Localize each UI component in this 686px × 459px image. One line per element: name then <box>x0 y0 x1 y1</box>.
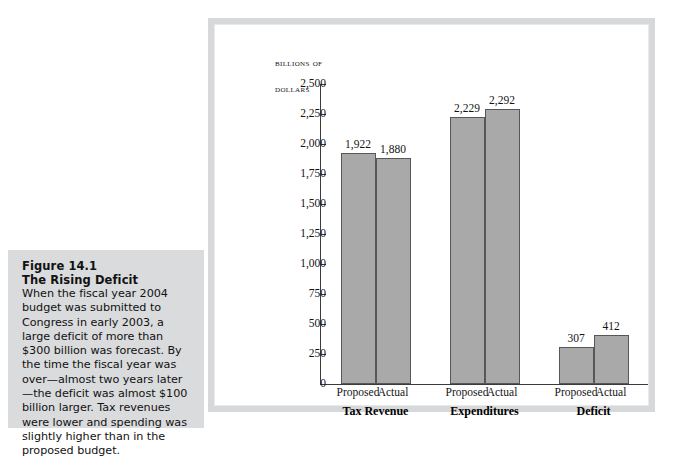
figure-caption-box: Figure 14.1 The Rising Deficit When the … <box>8 250 204 428</box>
bar <box>559 347 594 384</box>
y-axis-tick-label-wrap: 2,500 <box>264 84 326 85</box>
y-axis-tick-label-wrap: 1,750 <box>264 174 326 175</box>
y-axis-tick-label-wrap: 2,000 <box>264 144 326 145</box>
y-axis-tick-label: 500 <box>280 318 326 330</box>
y-axis-tick-label: 1,250 <box>280 228 326 240</box>
y-axis-tick-label: 1,500 <box>280 198 326 210</box>
x-axis-series-label: Actual <box>586 387 637 399</box>
y-axis-tick-label-wrap: 1,250 <box>264 234 326 235</box>
y-axis-tick-label-wrap: 750 <box>264 294 326 295</box>
y-axis-tick-label: 250 <box>280 348 326 360</box>
y-axis-tick-label: 1,000 <box>280 258 326 270</box>
y-axis-tick-label-wrap: 1,500 <box>264 204 326 205</box>
y-axis-tick-label-wrap: 500 <box>264 324 326 325</box>
bar <box>485 109 520 384</box>
bar <box>450 117 485 385</box>
figure-title: The Rising Deficit <box>22 273 193 287</box>
chart-plot-area: Billions of Dollars 02505007501,0001,250… <box>215 25 648 405</box>
y-axis-tick-label: 2,500 <box>280 78 326 90</box>
figure-number: Figure 14.1 <box>22 259 193 273</box>
y-axis-tick-label: 1,750 <box>280 168 326 180</box>
x-axis-group-label: Deficit <box>539 405 649 417</box>
x-axis-labels: ProposedActualTax RevenueProposedActualE… <box>321 387 648 427</box>
y-axis-tick-label: 2,250 <box>280 108 326 120</box>
page-bleed-text <box>300 437 680 448</box>
y-axis-title-line-1: Billions of <box>275 56 322 69</box>
y-axis-tick-label-wrap: 2,250 <box>264 114 326 115</box>
y-axis-tick-label: 2,000 <box>280 138 326 150</box>
y-axis-tick-label-wrap: 1,000 <box>264 264 326 265</box>
bar <box>594 335 629 384</box>
bar-value-label: 412 <box>586 321 637 333</box>
x-axis-series-label: Actual <box>477 387 528 399</box>
x-axis-group-label: Tax Revenue <box>321 405 431 417</box>
figure-caption-text: When the fiscal year 2004 budget was sub… <box>22 287 193 459</box>
x-axis-series-label: Actual <box>368 387 419 399</box>
chart-panel-frame: Billions of Dollars 02505007501,0001,250… <box>208 18 655 412</box>
y-axis-tick-label: 0 <box>280 378 326 390</box>
bars-layer: 1,9221,8802,2292,292307412 <box>321 84 648 384</box>
bar-value-label: 2,292 <box>477 95 528 107</box>
bar-value-label: 1,880 <box>368 144 419 156</box>
bar <box>376 158 411 384</box>
bar <box>341 153 376 384</box>
y-axis-tick-label-wrap: 250 <box>264 354 326 355</box>
x-axis-group-label: Expenditures <box>430 405 540 417</box>
y-axis-title: Billions of Dollars <box>275 43 322 108</box>
y-axis-tick-label-wrap: 0 <box>264 384 326 385</box>
y-axis-tick-label: 750 <box>280 288 326 300</box>
